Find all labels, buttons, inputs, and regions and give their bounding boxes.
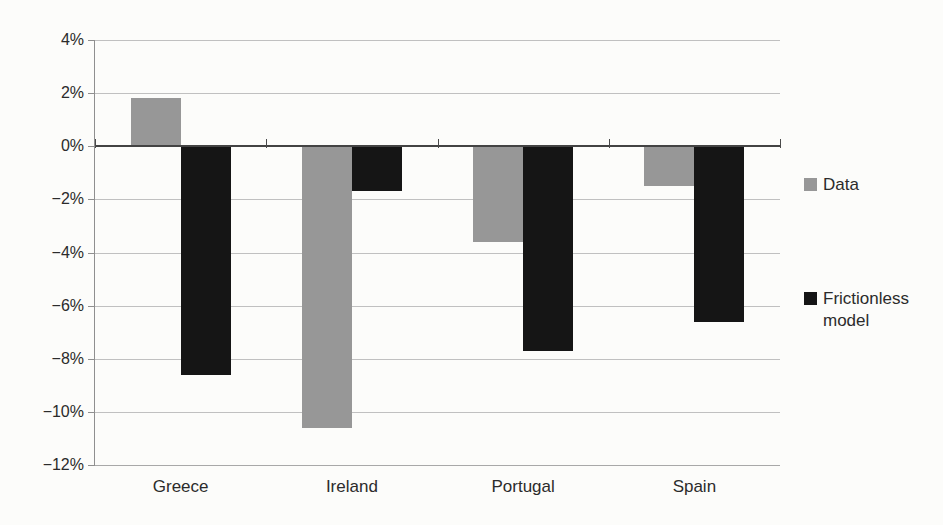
category-boundary-tick <box>266 139 267 148</box>
frictionless-model-series-swatch-icon <box>804 292 817 305</box>
x-axis-label-greece: Greece <box>111 477 251 497</box>
y-axis-tick-label: 2% <box>0 84 84 102</box>
category-boundary-tick <box>609 139 610 148</box>
legend-item-data: Data <box>804 174 859 196</box>
plot-area: 4%2%0%−2%−4%−6%−8%−10%−12%GreeceIrelandP… <box>0 0 943 525</box>
gridline <box>95 465 780 466</box>
data-series-swatch-icon <box>804 178 817 191</box>
bar-portugal-data <box>473 146 523 242</box>
bar-spain-data <box>644 146 694 186</box>
bar-ireland-data <box>302 146 352 428</box>
y-axis-tick-label: −6% <box>0 297 84 315</box>
y-axis-tick-label: −4% <box>0 244 84 262</box>
bar-portugal-frictionless-model <box>523 146 573 351</box>
gridline <box>95 93 780 94</box>
category-boundary-tick <box>438 139 439 148</box>
gridline <box>95 40 780 41</box>
bar-greece-frictionless-model <box>181 146 231 374</box>
legend: Data Frictionless model <box>804 0 940 525</box>
bar-greece-data <box>131 98 181 146</box>
y-axis-line <box>94 40 95 465</box>
category-boundary-tick <box>780 139 781 148</box>
y-axis-tick-label: −12% <box>0 456 84 474</box>
y-axis-tick-label: 4% <box>0 31 84 49</box>
x-axis-label-spain: Spain <box>624 477 764 497</box>
gridline <box>95 412 780 413</box>
y-axis-tick-label: −2% <box>0 190 84 208</box>
category-boundary-tick <box>95 139 96 148</box>
legend-item-frictionless-model: Frictionless model <box>804 288 935 332</box>
legend-label: Data <box>823 174 859 196</box>
bar-chart: 4%2%0%−2%−4%−6%−8%−10%−12%GreeceIrelandP… <box>0 0 943 525</box>
y-axis-tick-label: 0% <box>0 137 84 155</box>
bar-ireland-frictionless-model <box>352 146 402 191</box>
bar-spain-frictionless-model <box>694 146 744 321</box>
y-axis-tick-label: −10% <box>0 403 84 421</box>
y-axis-tick-label: −8% <box>0 350 84 368</box>
x-axis-label-ireland: Ireland <box>282 477 422 497</box>
y-axis-tick <box>88 465 95 466</box>
legend-label: Frictionless model <box>823 288 935 332</box>
x-axis-label-portugal: Portugal <box>453 477 593 497</box>
